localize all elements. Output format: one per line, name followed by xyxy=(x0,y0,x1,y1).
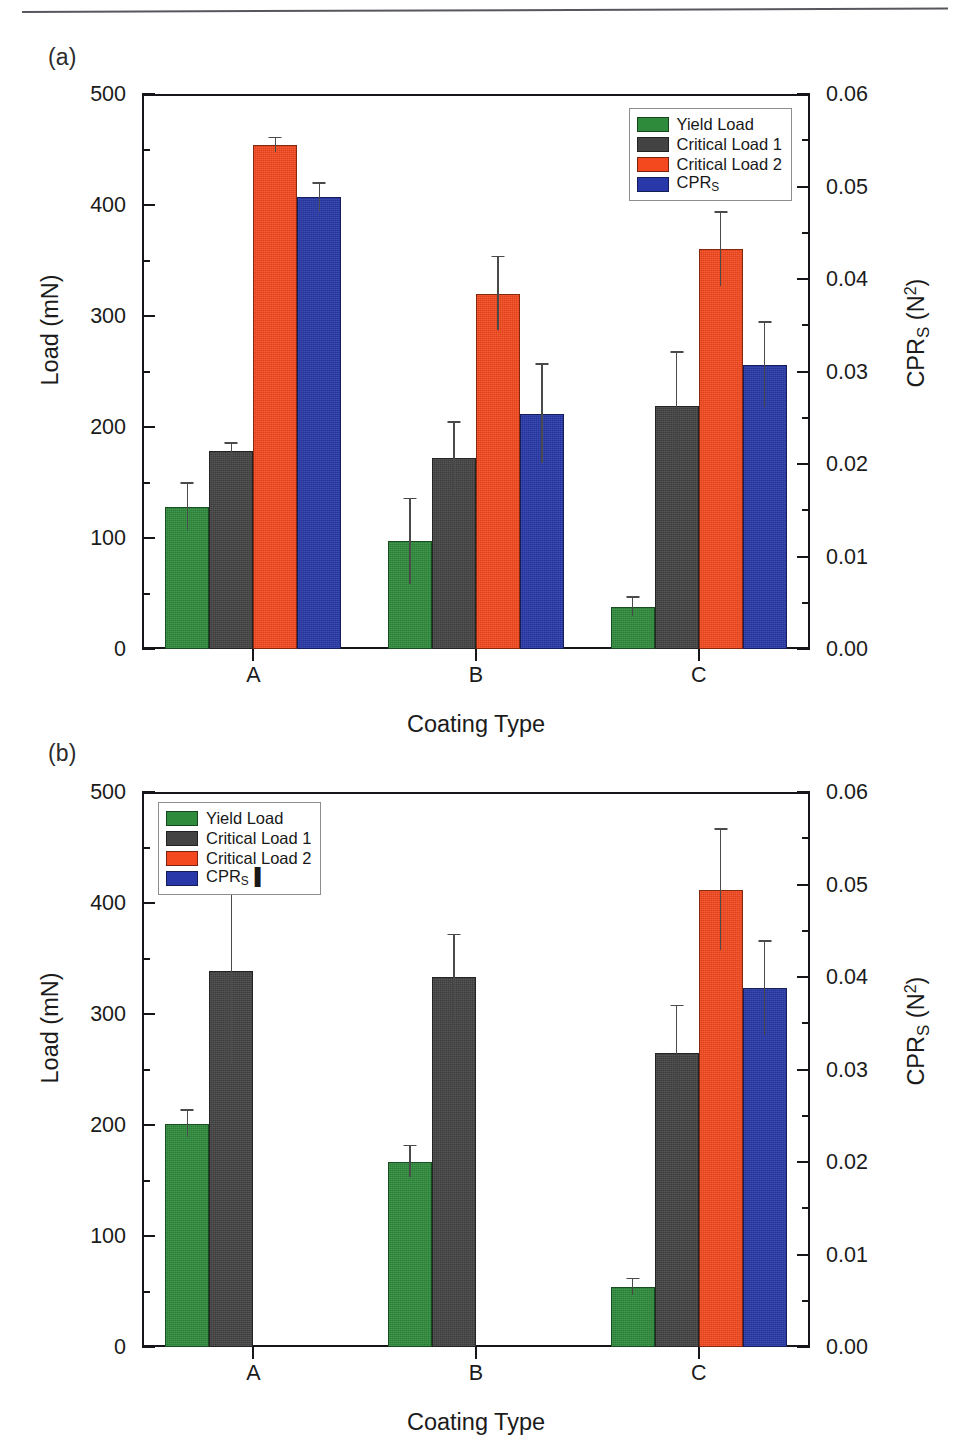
plot-b: 01002003004005000.000.010.020.030.040.05… xyxy=(142,792,810,1347)
y-right-tick-label: 0.02 xyxy=(826,452,868,477)
x-category-label: B xyxy=(469,663,483,688)
y-left-major-tick xyxy=(142,1346,155,1348)
y-left-major-tick xyxy=(142,1235,155,1237)
y-right-tick-label: 0.00 xyxy=(826,1335,868,1360)
page-header-rule xyxy=(22,7,948,13)
y-left-minor-tick xyxy=(142,260,150,262)
legend-item: Critical Load 1 xyxy=(166,828,311,848)
error-bar xyxy=(409,499,411,583)
y-right-major-tick xyxy=(797,1069,810,1071)
y-right-minor-tick xyxy=(802,1300,810,1302)
y-left-tick-label: 100 xyxy=(90,526,126,551)
y-left-tick-label: 400 xyxy=(90,193,126,218)
plot-b-x-title: Coating Type xyxy=(407,1409,545,1436)
y-left-major-tick xyxy=(142,315,155,317)
bar xyxy=(297,197,341,649)
error-bar xyxy=(409,1146,411,1177)
y-right-tick-label: 0.05 xyxy=(826,872,868,897)
y-left-minor-tick xyxy=(142,593,150,595)
error-bar xyxy=(453,423,455,494)
x-category-label: C xyxy=(691,663,707,688)
error-bar-cap xyxy=(448,934,461,936)
bar xyxy=(743,988,787,1347)
y-left-tick-label: 500 xyxy=(90,82,126,107)
error-bar xyxy=(187,1111,189,1138)
error-bar-cap xyxy=(448,421,461,423)
y-left-minor-tick xyxy=(142,1180,150,1182)
error-bar-cap xyxy=(670,351,683,353)
y-right-minor-tick xyxy=(802,509,810,511)
x-category-tick xyxy=(475,649,477,661)
y-right-minor-tick xyxy=(802,602,810,604)
error-bar xyxy=(720,830,722,950)
y-right-tick-label: 0.03 xyxy=(826,359,868,384)
y-left-tick-label: 100 xyxy=(90,1224,126,1249)
error-bar xyxy=(676,353,678,460)
legend-swatch xyxy=(166,831,198,846)
legend-item: Critical Load 2 xyxy=(166,848,311,868)
y-left-minor-tick xyxy=(142,482,150,484)
bar xyxy=(432,977,476,1347)
x-category-tick xyxy=(252,649,254,661)
error-bar xyxy=(231,444,233,460)
legend-swatch xyxy=(637,137,669,152)
error-bar xyxy=(720,213,722,286)
error-bar-cap xyxy=(626,596,639,598)
y-right-tick-label: 0.06 xyxy=(826,780,868,805)
panel-a-label: (a) xyxy=(48,44,77,71)
y-right-tick-label: 0.04 xyxy=(826,267,868,292)
legend-label: Critical Load 2 xyxy=(677,156,782,173)
legend-item: Yield Load xyxy=(166,808,311,828)
legend-label: CPRS xyxy=(677,174,720,194)
legend-swatch xyxy=(166,811,198,826)
legend-swatch xyxy=(637,177,669,192)
y-right-minor-tick xyxy=(802,324,810,326)
error-bar-cap xyxy=(758,321,771,323)
y-right-major-tick xyxy=(797,791,810,793)
y-right-minor-tick xyxy=(802,837,810,839)
plot-b-legend: Yield LoadCritical Load 1Critical Load 2… xyxy=(158,802,321,895)
bar xyxy=(743,365,787,649)
y-left-minor-tick xyxy=(142,1069,150,1071)
legend-label: Yield Load xyxy=(206,810,283,827)
legend-item: Yield Load xyxy=(637,114,782,134)
y-right-major-tick xyxy=(797,278,810,280)
error-bar-cap xyxy=(181,1109,194,1111)
bar xyxy=(699,249,743,649)
y-left-tick-label: 200 xyxy=(90,1113,126,1138)
y-left-major-tick xyxy=(142,93,155,95)
legend-label: Critical Load 1 xyxy=(206,830,311,847)
x-category-tick xyxy=(698,649,700,661)
legend-label: Critical Load 2 xyxy=(206,850,311,867)
y-left-minor-tick xyxy=(142,149,150,151)
legend-label: Yield Load xyxy=(677,116,754,133)
y-left-major-tick xyxy=(142,204,155,206)
y-right-major-tick xyxy=(797,556,810,558)
plot-a-legend: Yield LoadCritical Load 1Critical Load 2… xyxy=(629,108,792,201)
y-right-minor-tick xyxy=(802,1115,810,1117)
y-right-minor-tick xyxy=(802,1207,810,1209)
y-right-major-tick xyxy=(797,93,810,95)
y-left-major-tick xyxy=(142,537,155,539)
y-left-tick-label: 200 xyxy=(90,415,126,440)
y-right-tick-label: 0.04 xyxy=(826,965,868,990)
x-category-tick xyxy=(698,1347,700,1359)
error-bar-cap xyxy=(313,182,326,184)
y-right-minor-tick xyxy=(802,417,810,419)
legend-item: Critical Load 2 xyxy=(637,154,782,174)
error-bar xyxy=(231,877,233,1063)
y-right-tick-label: 0.01 xyxy=(826,544,868,569)
error-bar-cap xyxy=(225,442,238,444)
plot-a: 01002003004005000.000.010.020.030.040.05… xyxy=(142,94,810,649)
error-bar-cap xyxy=(714,828,727,830)
error-bar-cap xyxy=(670,1005,683,1007)
error-bar-cap xyxy=(758,940,771,942)
y-left-tick-label: 0 xyxy=(114,637,126,662)
error-bar xyxy=(632,1279,634,1295)
x-category-label: A xyxy=(246,663,260,688)
y-right-tick-label: 0.05 xyxy=(826,174,868,199)
legend-swatch xyxy=(637,117,669,132)
y-left-minor-tick xyxy=(142,847,150,849)
y-left-major-tick xyxy=(142,1013,155,1015)
x-category-label: B xyxy=(469,1361,483,1386)
